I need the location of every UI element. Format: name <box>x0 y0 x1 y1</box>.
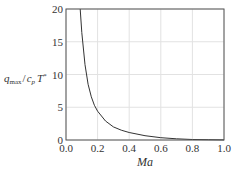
x-axis-label: Ma <box>136 155 153 169</box>
x-axis-ticks: 0.00.20.40.60.81.0 <box>59 142 231 154</box>
x-tick-label: 0.2 <box>91 142 105 154</box>
grid-lines <box>66 9 224 140</box>
chart: 0.00.20.40.60.81.0 05101520 Ma qmax/cpT* <box>0 0 235 172</box>
y-tick-label: 0 <box>58 134 64 146</box>
x-tick-label: 0.4 <box>122 142 136 154</box>
y-axis-label: qmax/cpT* <box>4 72 47 86</box>
y-tick-label: 15 <box>52 36 64 48</box>
x-tick-label: 0.6 <box>154 142 168 154</box>
y-tick-label: 5 <box>58 101 64 113</box>
y-tick-label: 20 <box>52 3 64 15</box>
x-tick-label: 0.8 <box>186 142 200 154</box>
x-tick-label: 1.0 <box>217 142 231 154</box>
y-tick-label: 10 <box>52 69 64 81</box>
y-axis-ticks: 05101520 <box>52 3 64 146</box>
